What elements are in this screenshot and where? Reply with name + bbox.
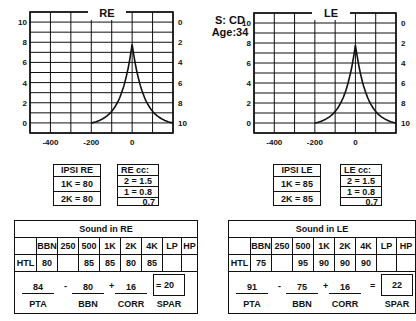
svg-text:0: 0 <box>247 119 252 128</box>
header-cell: 1K <box>314 238 335 254</box>
header-cell: 250 <box>58 238 79 254</box>
header-cell: BBN <box>251 238 272 254</box>
header-cell: 4K <box>142 238 163 254</box>
chart-title: LE <box>324 7 338 19</box>
svg-text:10: 10 <box>18 18 27 27</box>
cell-2k: 80 <box>121 255 142 271</box>
svg-text:-400: -400 <box>266 138 283 147</box>
chart-grid <box>30 12 173 133</box>
row-label: HTL <box>15 255 37 271</box>
pta-label: PTA <box>22 299 54 309</box>
sound-in-le-table: Sound in LE BBN 250 500 1K 2K 4K LP HP H… <box>228 220 416 314</box>
cell-250 <box>58 255 79 271</box>
le-cc-row-1: 1 = 0.8 <box>341 186 381 197</box>
svg-text:0: 0 <box>401 19 406 28</box>
header-cell <box>229 238 251 254</box>
header-cell <box>15 238 37 254</box>
bbn-value: 80 <box>72 281 104 294</box>
table-row: HTL 80 85 85 80 85 <box>15 255 197 272</box>
ipsi-le-box: IPSI LE 1K = 85 2K = 85 <box>273 164 321 206</box>
re-cc-box: RE cc: 2 = 1.5 1 = 0.8 0.7 <box>117 164 159 206</box>
svg-text:2: 2 <box>23 99 28 108</box>
svg-text:8: 8 <box>23 38 28 47</box>
cell-hp <box>182 255 197 271</box>
header-cell: 1K <box>100 238 121 254</box>
le-tympanogram-chart: LE 10864200246810-400-2000 <box>224 0 414 150</box>
cell-2k: 90 <box>335 255 356 271</box>
cell-500: 85 <box>79 255 100 271</box>
header-cell: 500 <box>79 238 100 254</box>
svg-text:0: 0 <box>353 138 358 147</box>
re-cc-row-3: 0.7 <box>118 197 158 207</box>
svg-text:6: 6 <box>23 58 28 67</box>
svg-text:-400: -400 <box>42 138 59 147</box>
ipsi-le-1k: 1K = 85 <box>274 176 320 191</box>
bbn-label: BBN <box>72 299 104 309</box>
svg-text:8: 8 <box>178 99 183 108</box>
ipsi-le-2k: 2K = 85 <box>274 191 320 206</box>
table-title: Sound in LE <box>229 221 415 238</box>
svg-text:6: 6 <box>401 79 406 88</box>
pta-label: PTA <box>236 299 268 309</box>
header-cell: LP <box>377 238 397 254</box>
header-cell: 250 <box>272 238 293 254</box>
pta-value: 91 <box>236 281 268 294</box>
corr-value: 16 <box>329 281 361 294</box>
svg-text:0: 0 <box>23 119 28 128</box>
ipsi-re-title: IPSI RE <box>54 165 100 176</box>
re-cc-row-1: 1 = 0.8 <box>118 186 158 197</box>
chart-title: RE <box>99 7 114 19</box>
equals-sign: = <box>370 281 375 291</box>
svg-text:4: 4 <box>23 79 28 88</box>
row-label: HTL <box>229 255 251 271</box>
chart-grid <box>254 13 396 133</box>
header-cell: 2K <box>335 238 356 254</box>
svg-text:10: 10 <box>401 119 410 128</box>
svg-text:8: 8 <box>247 39 252 48</box>
corr-label: CORR <box>329 299 361 309</box>
plus-sign: + <box>109 281 114 291</box>
cell-4k: 85 <box>142 255 163 271</box>
minus-sign: - <box>278 281 281 291</box>
table-header-row: BBN 250 500 1K 2K 4K LP HP <box>229 238 415 255</box>
cell-4k: 90 <box>356 255 377 271</box>
spar-formula: 91 - 75 + 16 = 22 PTA BBN CORR SPAR <box>229 271 415 311</box>
cell-lp <box>163 255 182 271</box>
svg-text:6: 6 <box>247 59 252 68</box>
svg-text:-200: -200 <box>83 138 100 147</box>
spar-label: SPAR <box>381 299 413 309</box>
spar-label: SPAR <box>153 299 185 309</box>
svg-text:2: 2 <box>247 99 252 108</box>
svg-text:8: 8 <box>401 99 406 108</box>
cell-bbn: 75 <box>251 255 272 271</box>
ipsi-re-2k: 2K = 80 <box>54 191 100 206</box>
plus-sign: + <box>323 281 328 291</box>
sound-in-re-table: Sound in RE BBN 250 500 1K 2K 4K LP HP H… <box>14 220 198 314</box>
cell-hp <box>397 255 415 271</box>
header-cell: 2K <box>121 238 142 254</box>
header-cell: BBN <box>37 238 58 254</box>
bbn-label: BBN <box>286 299 318 309</box>
svg-text:-200: -200 <box>307 138 324 147</box>
cell-500: 95 <box>293 255 314 271</box>
header-cell: HP <box>182 238 197 254</box>
corr-value: 16 <box>115 281 147 294</box>
bbn-value: 75 <box>286 281 318 294</box>
re-cc-row-2: 2 = 1.5 <box>118 175 158 186</box>
spar-value: 20 <box>153 274 185 296</box>
svg-text:2: 2 <box>178 38 183 47</box>
svg-text:10: 10 <box>242 19 251 28</box>
svg-text:4: 4 <box>247 79 252 88</box>
cell-1k: 85 <box>100 255 121 271</box>
le-cc-title: LE cc: <box>341 165 381 175</box>
ipsi-re-1k: 1K = 80 <box>54 176 100 191</box>
header-cell: LP <box>163 238 182 254</box>
svg-text:10: 10 <box>178 119 187 128</box>
spar-value: 22 <box>381 274 413 296</box>
cell-250 <box>272 255 293 271</box>
header-cell: HP <box>397 238 415 254</box>
table-title: Sound in RE <box>15 221 197 238</box>
header-cell: 4K <box>356 238 377 254</box>
corr-label: CORR <box>115 299 147 309</box>
re-cc-title: RE cc: <box>118 165 158 175</box>
